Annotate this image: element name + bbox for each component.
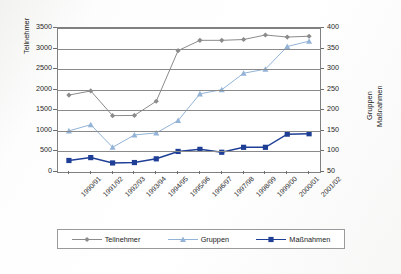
legend-label: Teilnehmer	[105, 235, 141, 244]
right-tick-label: 150	[327, 126, 361, 134]
x-tick-mark	[112, 171, 113, 174]
series-gruppen	[66, 38, 312, 150]
x-tick-label: 1991/92	[101, 175, 124, 198]
data-point-square	[269, 236, 274, 241]
data-point-triangle	[88, 122, 94, 128]
legend-item-gruppen[interactable]: Gruppen	[168, 235, 229, 244]
gridline	[58, 90, 320, 91]
data-point-square	[110, 160, 115, 165]
x-tick-label: 2000/01	[298, 175, 321, 198]
x-tick-label: 1997/98	[232, 175, 255, 198]
x-tick-mark	[221, 171, 222, 174]
legend-label: Maßnahmen	[289, 235, 330, 244]
data-point-square	[263, 145, 268, 150]
data-point-diamond	[132, 113, 137, 118]
left-tick-label: 3500	[0, 23, 52, 31]
x-tick-mark	[177, 171, 178, 174]
data-point-square	[241, 145, 246, 150]
right-tick-label: 250	[327, 85, 361, 93]
right-tick-label: 350	[327, 44, 361, 52]
right-axis-title-line2: Maßnahmen	[376, 86, 385, 128]
legend-item-teilnehmer[interactable]: Teilnehmer	[72, 235, 141, 244]
gridline	[58, 172, 320, 173]
x-tick-mark	[133, 171, 134, 174]
left-tick-label: 1000	[0, 126, 52, 134]
data-point-diamond	[66, 92, 71, 97]
data-point-diamond	[219, 38, 224, 43]
gridline	[58, 131, 320, 132]
series-maßnahmen	[66, 131, 311, 165]
gridline	[58, 110, 320, 111]
gridline	[58, 151, 320, 152]
x-tick-mark	[264, 171, 265, 174]
right-tick-label: 400	[327, 23, 361, 31]
data-point-triangle	[180, 236, 186, 242]
x-tick-mark	[155, 171, 156, 174]
x-tick-label: 1992/93	[123, 175, 146, 198]
data-point-square	[66, 158, 71, 163]
right-tick-label: 50	[327, 167, 361, 175]
x-tick-label: 1998/99	[254, 175, 277, 198]
legend-marker-triangle-icon	[168, 235, 198, 244]
right-tick-label: 300	[327, 64, 361, 72]
gridline	[58, 28, 320, 29]
data-point-square	[88, 155, 93, 160]
left-tick-label: 1500	[0, 105, 52, 113]
right-axis-title-line1: Gruppen	[366, 91, 375, 120]
legend-label: Gruppen	[201, 235, 229, 244]
x-tick-mark	[308, 171, 309, 174]
x-tick-label: 1993/94	[145, 175, 168, 198]
data-point-diamond	[84, 236, 89, 241]
data-point-diamond	[306, 34, 311, 39]
left-tick-label: 3000	[0, 44, 52, 52]
series-line	[69, 134, 309, 163]
left-tick-label: 2500	[0, 64, 52, 72]
gridline	[58, 69, 320, 70]
x-tick-label: 1999/00	[276, 175, 299, 198]
x-tick-label: 1990/91	[79, 175, 102, 198]
chart-legend: TeilnehmerGruppenMaßnahmen	[57, 229, 345, 249]
data-point-diamond	[263, 32, 268, 37]
data-point-diamond	[285, 34, 290, 39]
x-tick-label: 1996/97	[210, 175, 233, 198]
x-tick-mark	[286, 171, 287, 174]
data-point-square	[154, 156, 159, 161]
data-point-diamond	[197, 38, 202, 43]
legend-item-maßnahmen[interactable]: Maßnahmen	[256, 235, 330, 244]
x-tick-mark	[68, 171, 69, 174]
legend-marker-diamond-icon	[72, 235, 102, 244]
right-tick-label: 100	[327, 146, 361, 154]
x-tick-label: 2001/02	[319, 175, 342, 198]
data-point-triangle	[306, 38, 312, 44]
plot-area	[57, 27, 321, 173]
series-line	[69, 35, 309, 116]
x-tick-label: 1995/96	[188, 175, 211, 198]
right-tick-label: 200	[327, 105, 361, 113]
data-point-diamond	[154, 99, 159, 104]
left-tick-label: 500	[0, 146, 52, 154]
x-tick-mark	[243, 171, 244, 174]
legend-marker-square-icon	[256, 235, 286, 244]
chart-figure: Teilnehmer Gruppen Maßnahmen 05001000150…	[0, 0, 401, 274]
x-tick-label: 1994/95	[167, 175, 190, 198]
x-tick-mark	[199, 171, 200, 174]
left-tick-label: 0	[0, 167, 52, 175]
data-point-square	[132, 160, 137, 165]
series-teilnehmer	[66, 32, 311, 118]
x-tick-mark	[90, 171, 91, 174]
left-tick-label: 2000	[0, 85, 52, 93]
data-point-diamond	[241, 37, 246, 42]
gridline	[58, 49, 320, 50]
data-point-square	[285, 132, 290, 137]
